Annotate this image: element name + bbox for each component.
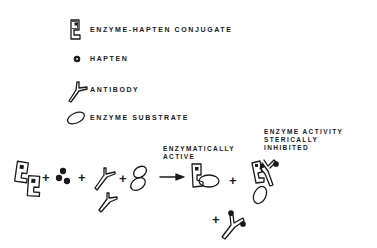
enzyme-hapten-conjugate-pair (15, 161, 41, 196)
diagram-canvas (0, 0, 377, 248)
enzyme-hapten-conjugate-icon (71, 20, 80, 39)
plus-sign: + (212, 213, 220, 226)
plus-sign: + (42, 171, 50, 184)
plus-sign: + (229, 174, 237, 187)
enzyme-substrate-icon (66, 110, 87, 127)
plus-sign: + (78, 171, 86, 184)
reaction-arrow (160, 174, 184, 180)
antibody-icon (69, 82, 87, 102)
antibody-pair (95, 168, 117, 212)
plus-sign: + (119, 172, 127, 185)
substrate-figure (128, 164, 148, 193)
antibody-hapten-complex (222, 211, 245, 239)
sterically-inhibited-label: ENZYME ACTIVITY STERICALLY INHIBITED (264, 128, 343, 152)
enzymatically-active-label: ENZYMATICALLY ACTIVE (163, 145, 235, 161)
inhibited-enzyme-complex (251, 160, 278, 206)
legend-label-hapten: HAPTEN (90, 55, 128, 63)
hapten-icon (74, 56, 79, 61)
legend-label-enzyme-substrate: ENZYME SUBSTRATE (90, 114, 189, 122)
active-enzyme-complex (192, 164, 219, 187)
legend-label-antibody: ANTIBODY (90, 86, 139, 94)
legend-label-enzyme-hapten-conjugate: ENZYME-HAPTEN CONJUGATE (90, 26, 232, 34)
hapten-cluster (57, 169, 70, 184)
